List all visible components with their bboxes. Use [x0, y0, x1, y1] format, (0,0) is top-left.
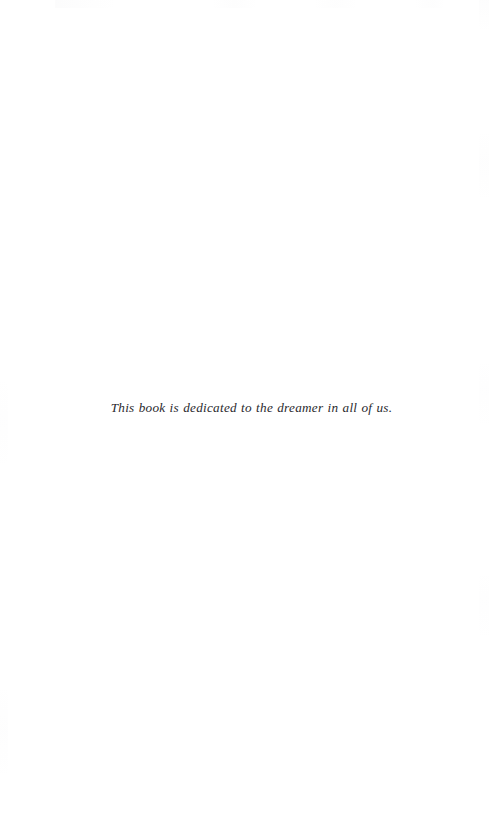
scan-artifact-top-edge — [55, 0, 445, 8]
dedication-block: This book is dedicated to the dreamer in… — [0, 398, 489, 417]
book-page: This book is dedicated to the dreamer in… — [0, 0, 489, 813]
dedication-text: This book is dedicated to the dreamer in… — [111, 399, 393, 417]
